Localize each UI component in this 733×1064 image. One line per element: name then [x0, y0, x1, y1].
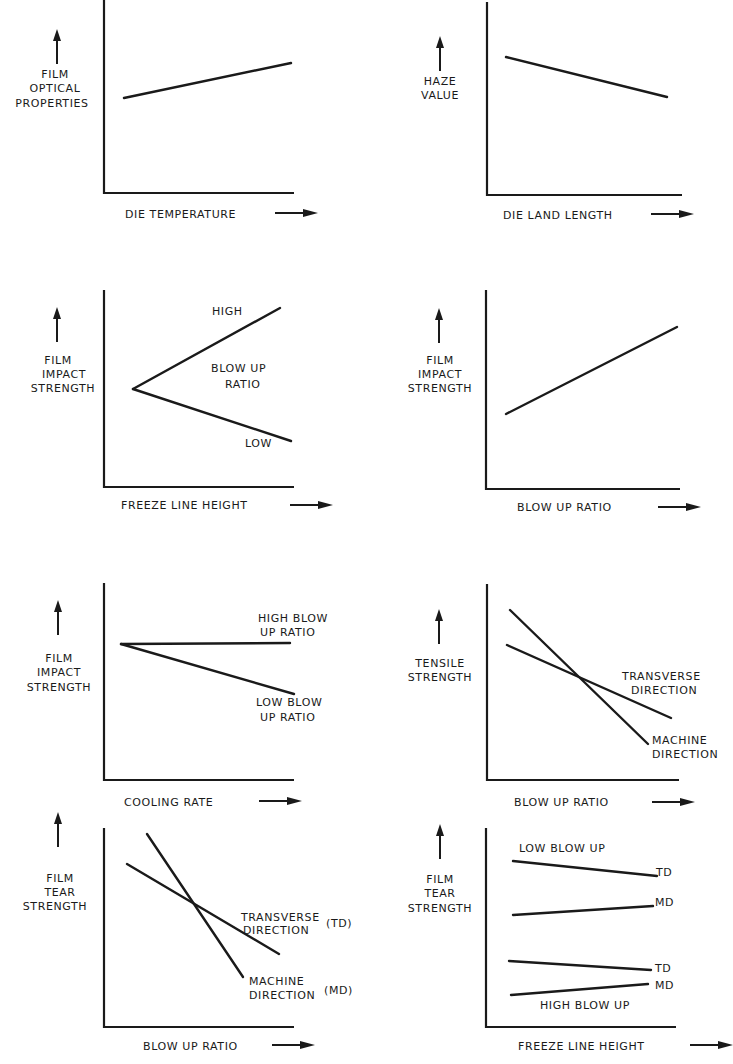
series-line-low — [121, 644, 294, 694]
x-axis-label: DIE TEMPERATURE — [125, 208, 236, 221]
y-label-line: TENSILE — [414, 657, 464, 670]
series-line-high-td — [509, 961, 651, 970]
annotation: TD — [655, 866, 672, 879]
annotation: RATIO — [225, 378, 261, 391]
x-arrow-icon — [259, 797, 302, 805]
y-label-line: FILM — [426, 354, 454, 367]
x-arrow-icon — [290, 501, 333, 509]
y-arrow-icon — [435, 308, 443, 343]
panel-tear-vs-blow-up: FILM TEAR STRENGTH TRANSVERSE DIRECTION … — [23, 812, 353, 1053]
annotation: (MD) — [324, 984, 353, 997]
annotation: DIRECTION — [652, 748, 718, 761]
annotation: HIGH BLOW — [258, 612, 328, 625]
annotation: MD — [655, 979, 674, 992]
y-arrow-icon — [53, 29, 61, 64]
series-line-low-td — [513, 861, 657, 876]
annotation: MACHINE — [652, 734, 707, 747]
y-label-line: IMPACT — [37, 666, 81, 679]
panel-impact-vs-cooling-rate: FILM IMPACT STRENGTH HIGH BLOW UP RATIO … — [27, 583, 328, 809]
panel-impact-vs-blow-up: FILM IMPACT STRENGTH BLOW UP RATIO — [408, 290, 701, 514]
y-label-line: STRENGTH — [408, 671, 472, 684]
annotation: LOW BLOW UP — [519, 842, 605, 855]
panel-film-optical-vs-die-temperature: FILM OPTICAL PROPERTIES DIE TEMPERATURE — [15, 0, 318, 221]
y-label-line: TEAR — [43, 886, 75, 899]
series-line — [506, 327, 677, 414]
panel-tear-vs-freeze-line: FILM TEAR STRENGTH LOW BLOW UP TD MD TD … — [408, 824, 733, 1053]
x-arrow-icon — [690, 1041, 733, 1049]
figure-grid: FILM OPTICAL PROPERTIES DIE TEMPERATURE … — [0, 0, 733, 1064]
y-label-line: IMPACT — [42, 368, 86, 381]
y-label-line: STRENGTH — [31, 382, 95, 395]
x-arrow-icon — [651, 210, 694, 218]
series-line-td — [127, 864, 279, 954]
y-label-line: STRENGTH — [27, 681, 91, 694]
panel-haze-vs-die-land-length: HAZE VALUE DIE LAND LENGTH — [421, 2, 694, 222]
x-axis-label: DIE LAND LENGTH — [503, 209, 613, 222]
axes — [486, 828, 676, 1027]
annotation: BLOW UP — [211, 362, 266, 375]
y-label-line: FILM — [46, 872, 74, 885]
y-arrow-icon — [435, 609, 443, 644]
x-arrow-icon — [658, 503, 701, 511]
y-label-line: FILM — [45, 652, 73, 665]
annotation: MACHINE — [249, 975, 304, 988]
series-line-low-md — [513, 906, 653, 915]
annotation: TRANSVERSE — [621, 670, 701, 683]
annotation: TRANSVERSE — [240, 911, 320, 924]
x-arrow-icon — [275, 209, 318, 217]
axes — [487, 2, 682, 195]
x-axis-label: BLOW UP RATIO — [143, 1040, 238, 1053]
series-line-low — [133, 389, 291, 441]
y-label-line: STRENGTH — [23, 900, 87, 913]
annotation: MD — [655, 896, 674, 909]
series-line — [506, 57, 667, 97]
annotation: TD — [654, 962, 671, 975]
annotation: UP RATIO — [260, 711, 315, 724]
series-line — [124, 63, 291, 98]
annotation: HIGH BLOW UP — [540, 999, 630, 1012]
axes — [486, 290, 680, 489]
y-label-line: STRENGTH — [408, 902, 472, 915]
y-label-line: HAZE — [424, 75, 457, 88]
y-label-line: TEAR — [423, 887, 455, 900]
panel-impact-vs-freeze-line: FILM IMPACT STRENGTH HIGH BLOW UP RATIO … — [31, 290, 333, 512]
y-label-line: FILM — [44, 354, 72, 367]
series-line-high-md — [511, 984, 648, 995]
y-label-line: VALUE — [421, 89, 459, 102]
annotation: (TD) — [326, 917, 352, 930]
annotation: DIRECTION — [243, 924, 309, 937]
annotation: HIGH — [212, 305, 243, 318]
panel-tensile-vs-blow-up: TENSILE STRENGTH TRANSVERSE DIRECTION MA… — [408, 584, 718, 809]
x-axis-label: FREEZE LINE HEIGHT — [518, 1040, 645, 1053]
y-label-line: IMPACT — [418, 368, 462, 381]
series-line-high — [133, 308, 280, 389]
y-label-line: PROPERTIES — [15, 97, 88, 110]
y-label-line: OPTICAL — [30, 82, 81, 95]
y-arrow-icon — [53, 307, 61, 342]
y-arrow-icon — [54, 812, 62, 847]
x-axis-label: BLOW UP RATIO — [517, 501, 612, 514]
y-label-line: FILM — [426, 873, 454, 886]
x-axis-label: COOLING RATE — [124, 796, 213, 809]
y-arrow-icon — [54, 600, 62, 635]
y-label-line: STRENGTH — [408, 382, 472, 395]
x-axis-label: BLOW UP RATIO — [514, 796, 609, 809]
annotation: LOW — [245, 437, 272, 450]
annotation: DIRECTION — [249, 989, 315, 1002]
x-arrow-icon — [652, 798, 695, 806]
series-line-high — [121, 643, 290, 644]
y-arrow-icon — [436, 824, 444, 859]
x-axis-label: FREEZE LINE HEIGHT — [121, 499, 248, 512]
annotation: LOW BLOW — [256, 696, 322, 709]
y-arrow-icon — [436, 36, 444, 71]
x-arrow-icon — [272, 1041, 315, 1049]
annotation: UP RATIO — [260, 626, 315, 639]
y-label-line: FILM — [41, 68, 69, 81]
annotation: DIRECTION — [631, 684, 697, 697]
